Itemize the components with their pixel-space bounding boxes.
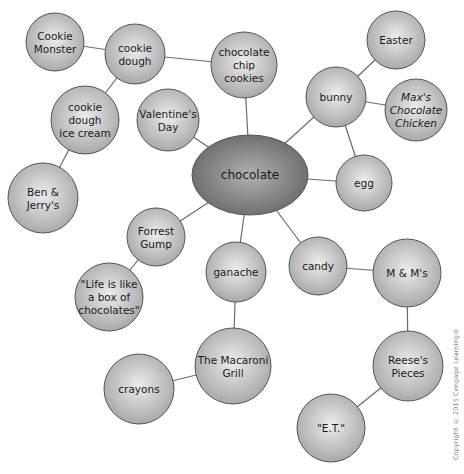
node-chocolate: chocolate: [192, 135, 308, 215]
node-label: bunny: [320, 91, 353, 103]
node-label: cookiedough: [118, 42, 152, 67]
node-label: ganache: [213, 266, 258, 278]
node-cookie-monster: CookieMonster: [26, 13, 84, 71]
node-easter: Easter: [367, 11, 425, 69]
node-crayons: crayons: [104, 354, 174, 424]
node-egg: egg: [336, 155, 392, 211]
node-forrest-gump: ForrestGump: [127, 208, 185, 266]
node-et: "E.T.": [297, 394, 365, 462]
node-life-is-like: "Life is likea box ofchocolates": [75, 263, 143, 331]
node-valentines-day: Valentine'sDay: [137, 89, 199, 151]
node-label: M & M's: [386, 267, 427, 279]
concept-web-diagram: chocolateCookieMonstercookiedoughchocola…: [0, 0, 464, 474]
node-label: Ben &Jerry's: [26, 186, 60, 211]
node-label: ForrestGump: [138, 225, 174, 250]
nodes: chocolateCookieMonstercookiedoughchocola…: [8, 11, 447, 462]
copyright-notice: Copyright © 2015 Cengage Learning®: [452, 327, 460, 460]
node-cookie-dough-ice-cream: cookiedoughice cream: [51, 86, 119, 154]
node-cookie-dough: cookiedough: [105, 24, 165, 84]
node-label: Reese'sPieces: [388, 354, 428, 379]
node-bunny: bunny: [306, 67, 366, 127]
node-label: Easter: [379, 34, 413, 46]
node-maxs-chocolate-chicken: Max'sChocolateChicken: [385, 79, 447, 141]
node-label: candy: [302, 260, 334, 272]
node-label: chocolate: [221, 168, 279, 182]
node-ben-and-jerrys: Ben &Jerry's: [8, 163, 78, 233]
node-reeses-pieces: Reese'sPieces: [373, 331, 443, 401]
node-label: crayons: [118, 383, 159, 395]
node-label: CookieMonster: [34, 30, 77, 55]
node-m-and-ms: M & M's: [373, 239, 441, 307]
node-label: "E.T.": [317, 422, 345, 434]
node-label: egg: [354, 177, 374, 189]
node-ganache: ganache: [206, 242, 266, 302]
node-candy: candy: [289, 237, 347, 295]
node-macaroni-grill: The MacaroniGrill: [195, 328, 271, 404]
node-chocolate-chip-cookies: chocolatechipcookies: [211, 32, 277, 98]
